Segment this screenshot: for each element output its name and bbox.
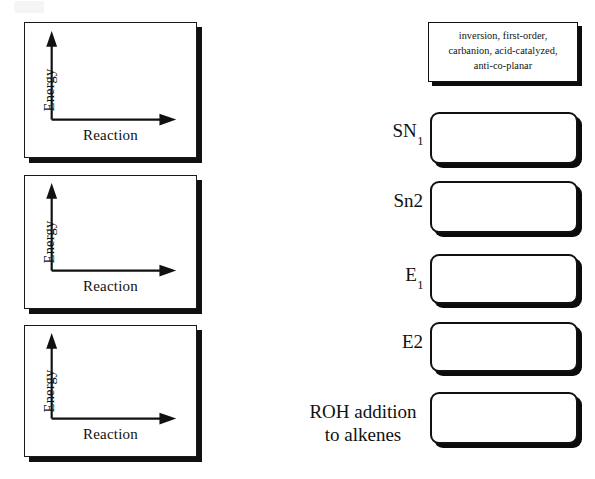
term-label-text: Sn2 — [393, 190, 423, 211]
term-label-subscript: 1 — [417, 134, 423, 148]
answer-box-e2[interactable] — [430, 322, 578, 372]
energy-axis-label: Energy — [41, 348, 58, 434]
term-label-line-2: to alkenes — [283, 423, 443, 446]
term-label-subscript: 1 — [417, 278, 423, 292]
answer-box-e1[interactable] — [430, 254, 578, 304]
term-label-e2: E2 — [243, 331, 423, 353]
word-bank-line-3: anti-co-planar — [436, 59, 570, 74]
answer-box-sn2[interactable] — [430, 181, 578, 233]
term-label-text: E2 — [402, 331, 423, 352]
energy-axis-label: Energy — [41, 47, 58, 133]
page-artifact — [14, 1, 44, 13]
term-label-text: E — [405, 264, 417, 285]
term-label-sn1: SN1 — [243, 120, 423, 142]
reaction-axis-label: Reaction — [25, 426, 196, 443]
term-label-e1: E1 — [243, 264, 423, 286]
term-label-sn2: Sn2 — [243, 190, 423, 212]
reaction-axis-label: Reaction — [25, 127, 196, 144]
term-label-text: SN — [392, 120, 416, 141]
term-label-roh-addition: ROH addition to alkenes — [283, 400, 443, 446]
answer-box-roh-addition[interactable] — [430, 392, 578, 444]
energy-diagram-panel-3: Energy Reaction — [24, 325, 197, 457]
answer-box-sn1[interactable] — [430, 112, 578, 164]
word-bank-line-2: carbanion, acid-catalyzed, — [436, 44, 570, 59]
energy-axis-label: Energy — [41, 199, 58, 285]
energy-diagram-panel-2: Energy Reaction — [24, 175, 197, 309]
worksheet-page: Energy Reaction Energy Reaction Energy R… — [0, 0, 595, 479]
term-label-line-1: ROH addition — [283, 400, 443, 423]
word-bank-box: inversion, first-order, carbanion, acid-… — [428, 22, 578, 82]
energy-diagram-panel-1: Energy Reaction — [24, 22, 197, 158]
reaction-axis-label: Reaction — [25, 278, 196, 295]
word-bank-line-1: inversion, first-order, — [436, 29, 570, 44]
